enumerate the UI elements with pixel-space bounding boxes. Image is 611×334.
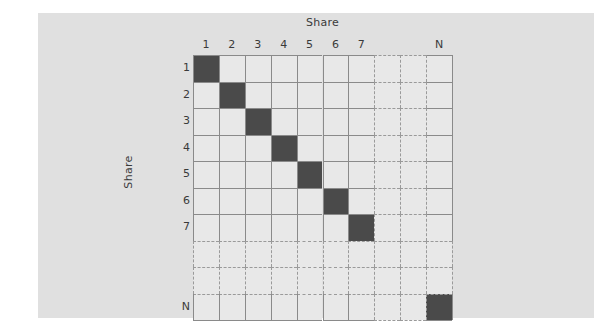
gridline-horizontal bbox=[245, 161, 271, 162]
gridline-vertical bbox=[193, 108, 194, 135]
matrix-cell-filled bbox=[193, 55, 219, 82]
gridline-horizontal bbox=[297, 214, 323, 215]
matrix-cell bbox=[297, 108, 323, 135]
matrix-cell-filled bbox=[297, 161, 323, 188]
gridline-horizontal bbox=[245, 55, 271, 56]
gridline-vertical bbox=[245, 214, 246, 241]
gridline-vertical bbox=[297, 55, 298, 82]
gridline-horizontal bbox=[271, 55, 297, 56]
matrix-cell bbox=[297, 214, 323, 241]
matrix-cell bbox=[297, 294, 323, 321]
gridline-vertical bbox=[245, 161, 246, 188]
matrix-cell bbox=[245, 55, 271, 82]
matrix-cell bbox=[245, 267, 271, 294]
gridline-horizontal bbox=[348, 82, 374, 83]
matrix-cell bbox=[323, 241, 349, 268]
gridline-vertical bbox=[245, 135, 246, 162]
row-header-column: 1234567N bbox=[168, 55, 190, 320]
gridline-horizontal bbox=[348, 108, 374, 109]
matrix-cell bbox=[297, 267, 323, 294]
gridline-horizontal bbox=[426, 135, 452, 136]
gridline-horizontal bbox=[323, 108, 349, 109]
matrix-cell bbox=[374, 188, 400, 215]
gridline-horizontal bbox=[426, 214, 452, 215]
gridline-vertical-dashed bbox=[426, 267, 427, 294]
gridline-horizontal-dashed bbox=[374, 320, 400, 321]
row-header-label: 3 bbox=[168, 108, 190, 134]
matrix-cell bbox=[193, 135, 219, 162]
gridline-horizontal bbox=[271, 135, 297, 136]
matrix-cell bbox=[348, 188, 374, 215]
gridline-vertical-dashed bbox=[348, 241, 349, 268]
gridline-vertical bbox=[245, 294, 246, 321]
gridline-vertical-dashed bbox=[400, 267, 401, 294]
gridline-horizontal bbox=[323, 82, 349, 83]
matrix-cell-filled bbox=[219, 82, 245, 109]
matrix-cell bbox=[426, 55, 452, 82]
matrix-cell bbox=[348, 161, 374, 188]
gridline-vertical bbox=[323, 161, 324, 188]
gridline-vertical bbox=[348, 161, 349, 188]
gridline-horizontal bbox=[271, 188, 297, 189]
gridline-horizontal-dashed bbox=[323, 294, 349, 295]
figure-root: Share Share 1234567N 1234567N bbox=[0, 0, 611, 334]
gridline-vertical bbox=[348, 82, 349, 109]
gridline-horizontal bbox=[245, 82, 271, 83]
matrix-cell bbox=[400, 214, 426, 241]
matrix-cell bbox=[426, 267, 452, 294]
gridline-vertical-dashed bbox=[400, 161, 401, 188]
gridline-vertical-dashed bbox=[297, 241, 298, 268]
gridline-vertical bbox=[193, 135, 194, 162]
gridline-horizontal-dashed bbox=[271, 241, 297, 242]
matrix-cell bbox=[323, 161, 349, 188]
matrix-cell bbox=[219, 55, 245, 82]
gridline-horizontal bbox=[219, 161, 245, 162]
gridline-vertical-dashed bbox=[426, 135, 427, 162]
gridline-vertical-dashed bbox=[400, 188, 401, 215]
gridline-horizontal-dashed bbox=[348, 241, 374, 242]
matrix-cell bbox=[245, 214, 271, 241]
gridline-horizontal bbox=[219, 214, 245, 215]
column-header-label: 4 bbox=[271, 38, 297, 51]
matrix-cell bbox=[245, 135, 271, 162]
matrix-cell bbox=[400, 161, 426, 188]
gridline-vertical bbox=[348, 55, 349, 82]
matrix-cell bbox=[193, 267, 219, 294]
gridline-vertical bbox=[219, 108, 220, 135]
gridline-vertical-dashed bbox=[426, 214, 427, 241]
gridline-horizontal bbox=[271, 161, 297, 162]
row-header-label: 5 bbox=[168, 161, 190, 187]
gridline-vertical bbox=[297, 214, 298, 241]
gridline-vertical bbox=[219, 55, 220, 82]
gridline-vertical-dashed bbox=[374, 108, 375, 135]
gridline-horizontal bbox=[323, 188, 349, 189]
matrix-cell bbox=[219, 135, 245, 162]
matrix-cell bbox=[400, 55, 426, 82]
gridline-vertical bbox=[323, 188, 324, 215]
matrix-cell bbox=[219, 241, 245, 268]
matrix-cell-filled bbox=[245, 108, 271, 135]
gridline-horizontal bbox=[271, 320, 297, 321]
matrix-cell bbox=[400, 267, 426, 294]
gridline-horizontal bbox=[193, 320, 219, 321]
gridline-horizontal bbox=[219, 82, 245, 83]
matrix-cell bbox=[348, 82, 374, 109]
gridline-horizontal-dashed bbox=[348, 267, 374, 268]
gridline-vertical-dashed bbox=[400, 55, 401, 82]
gridline-vertical-dashed bbox=[219, 241, 220, 268]
gridline-horizontal bbox=[323, 55, 349, 56]
gridline-vertical bbox=[323, 82, 324, 109]
gridline-horizontal bbox=[348, 320, 374, 321]
gridline-horizontal-dashed bbox=[400, 161, 426, 162]
gridline-horizontal-dashed bbox=[271, 267, 297, 268]
gridline-vertical bbox=[452, 294, 453, 321]
gridline-horizontal-dashed bbox=[323, 267, 349, 268]
gridline-vertical-dashed bbox=[245, 241, 246, 268]
gridline-vertical bbox=[193, 82, 194, 109]
gridline-vertical-dashed bbox=[374, 267, 375, 294]
gridline-horizontal-dashed bbox=[400, 294, 426, 295]
matrix-cell bbox=[323, 135, 349, 162]
gridline-horizontal-dashed bbox=[245, 294, 271, 295]
gridline-horizontal-dashed bbox=[374, 294, 400, 295]
matrix-cell bbox=[219, 161, 245, 188]
